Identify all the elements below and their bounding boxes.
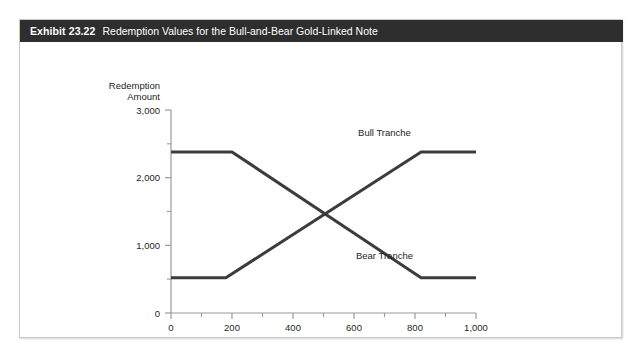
series-lines (171, 152, 476, 278)
x-axis-ticks (171, 313, 476, 319)
x-tick-label: 0 (168, 322, 173, 333)
y-tick-label: 3,000 (136, 105, 160, 116)
redemption-values-line-chart: 02004006008001,00001,0002,0003,000Redemp… (20, 42, 623, 338)
y-tick-label: 2,000 (136, 172, 160, 183)
exhibit-number: Exhibit 23.22 (30, 25, 96, 37)
y-axis-ticks (165, 110, 171, 313)
exhibit-header: Exhibit 23.22 Redemption Values for the … (20, 20, 623, 42)
series-label-bear-tranche: Bear Tranche (356, 250, 413, 261)
y-axis-title-line2: Amount (127, 91, 160, 102)
chart-text-labels: 02004006008001,00001,0002,0003,000Redemp… (109, 80, 488, 338)
exhibit-title: Redemption Values for the Bull-and-Bear … (103, 25, 378, 37)
y-tick-label: 0 (155, 308, 160, 319)
x-tick-label: 600 (346, 322, 362, 333)
y-tick-label: 1,000 (136, 240, 160, 251)
y-axis-title-line1: Redemption (109, 80, 160, 91)
x-tick-label: 800 (407, 322, 423, 333)
series-label-bull-tranche: Bull Tranche (358, 127, 411, 138)
x-tick-label: 200 (224, 322, 240, 333)
chart-plot-area: 02004006008001,00001,0002,0003,000Redemp… (20, 42, 623, 338)
exhibit-frame: Exhibit 23.22 Redemption Values for the … (19, 19, 622, 338)
x-tick-label: 400 (285, 322, 301, 333)
x-tick-label: 1,000 (464, 322, 488, 333)
series-line-bull-tranche (171, 152, 476, 278)
